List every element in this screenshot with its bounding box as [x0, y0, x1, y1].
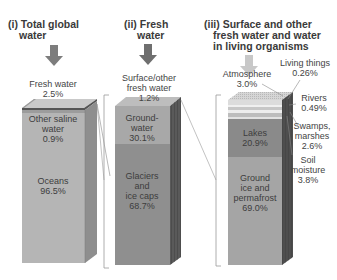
surface-value: 1.2%: [112, 93, 186, 103]
fresh-water-label-text: Fresh water: [18, 79, 88, 89]
ground-ice-line1: Ground: [224, 173, 286, 183]
atmosphere-value: 3.0%: [219, 79, 275, 89]
saline-value: 0.9%: [20, 134, 86, 144]
rivers-label: Rivers: [294, 93, 334, 103]
fresh-water-value: 2.5%: [18, 89, 88, 99]
lakes-label: Lakes 20.9%: [226, 128, 284, 148]
atmosphere-callout: Atmosphere 3.0%: [219, 69, 275, 89]
swamps-value: 2.6%: [287, 141, 337, 151]
ground-ice-line2: ice and: [224, 183, 286, 193]
arrow-down-icon: [139, 44, 157, 65]
oceans-label: Oceans 96.5%: [20, 176, 86, 196]
soil-value: 3.8%: [284, 175, 332, 185]
panel-1-title-line2: water: [19, 30, 106, 41]
saline-water-label: Other saline water 0.9%: [20, 114, 86, 144]
living-things-label: Living things: [273, 58, 337, 68]
groundwater-value: 30.1%: [113, 133, 171, 143]
ground-ice-value: 69.0%: [224, 203, 286, 213]
arrow-down-icon: [45, 45, 63, 66]
rivers-callout: Rivers 0.49%: [294, 93, 334, 113]
rivers-value: 0.49%: [294, 103, 334, 113]
saline-label-line1: Other saline: [20, 114, 86, 124]
swamps-callout: Swamps, marshes 2.6%: [287, 121, 337, 151]
groundwater-label: Ground- water 30.1%: [113, 113, 171, 143]
groundwater-line2: water: [113, 123, 171, 133]
glaciers-label: Glaciers and ice caps 68.7%: [113, 171, 171, 211]
swamps-label-line1: Swamps,: [287, 121, 337, 131]
surface-other-fresh-label: Surface/other fresh water 1.2%: [112, 73, 186, 103]
glaciers-line1: Glaciers: [113, 171, 171, 181]
oceans-value: 96.5%: [20, 186, 86, 196]
soil-label-line2: moisture: [284, 165, 332, 175]
soil-label-line1: Soil: [284, 155, 332, 165]
surface-label-line1: Surface/other: [112, 73, 186, 83]
panel-1-title: (i) Total global water: [6, 19, 106, 41]
glaciers-line3: ice caps: [113, 191, 171, 201]
panel-3-title: (iii) Surface and other fresh water and …: [204, 19, 337, 52]
glaciers-value: 68.7%: [113, 201, 171, 211]
glaciers-line2: and: [113, 181, 171, 191]
lakes-label-text: Lakes: [226, 128, 284, 138]
soil-moisture-callout: Soil moisture 3.8%: [284, 155, 332, 185]
panel-2-title-line2: water: [137, 30, 204, 41]
living-things-value: 0.26%: [273, 68, 337, 78]
ground-ice-label: Ground ice and permafrost 69.0%: [224, 173, 286, 213]
atmosphere-label: Atmosphere: [219, 69, 275, 79]
saline-label-line2: water: [20, 124, 86, 134]
living-things-callout: Living things 0.26%: [273, 58, 337, 78]
ground-ice-line3: permafrost: [224, 193, 286, 203]
swamps-label-line2: marshes: [287, 131, 337, 141]
panel-2-title: (ii) Fresh water: [124, 19, 204, 41]
lakes-value: 20.9%: [226, 138, 284, 148]
oceans-label-text: Oceans: [20, 176, 86, 186]
panel-2-title-line1: (ii) Fresh: [124, 19, 204, 30]
surface-label-line2: fresh water: [112, 83, 186, 93]
fresh-water-label: Fresh water 2.5%: [18, 79, 88, 99]
groundwater-line1: Ground-: [113, 113, 171, 123]
panel-3-title-line3: in living organisms: [213, 41, 337, 52]
